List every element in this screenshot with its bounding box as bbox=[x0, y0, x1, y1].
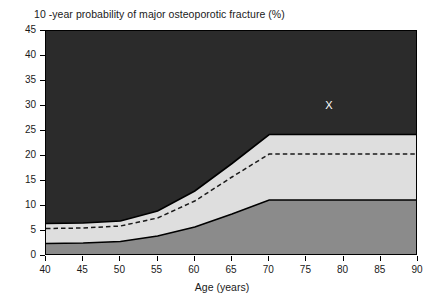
x-tick-label: 60 bbox=[179, 265, 209, 275]
y-tick-label: 15 bbox=[6, 175, 36, 185]
chart-title: 10 -year probability of major osteoporot… bbox=[34, 8, 285, 20]
x-tick-mark bbox=[82, 256, 83, 261]
y-tick-mark bbox=[40, 155, 45, 156]
x-tick-mark bbox=[305, 256, 306, 261]
x-tick-label: 80 bbox=[328, 265, 358, 275]
y-tick-mark bbox=[40, 80, 45, 81]
x-tick-label: 85 bbox=[365, 265, 395, 275]
patient-marker: X bbox=[325, 100, 332, 111]
y-tick-mark bbox=[40, 105, 45, 106]
x-tick-mark bbox=[194, 256, 195, 261]
y-tick-label: 10 bbox=[6, 200, 36, 210]
x-tick-mark bbox=[45, 256, 46, 261]
x-axis-title: Age (years) bbox=[0, 281, 444, 293]
x-tick-label: 90 bbox=[402, 265, 432, 275]
plot-area: X bbox=[45, 30, 417, 255]
y-tick-label: 30 bbox=[6, 100, 36, 110]
y-tick-label: 40 bbox=[6, 50, 36, 60]
x-tick-mark bbox=[119, 256, 120, 261]
y-tick-mark bbox=[40, 30, 45, 31]
x-tick-label: 70 bbox=[253, 265, 283, 275]
chart-container: 10 -year probability of major osteoporot… bbox=[0, 0, 444, 299]
y-tick-label: 0 bbox=[6, 250, 36, 260]
y-tick-label: 20 bbox=[6, 150, 36, 160]
y-tick-label: 5 bbox=[6, 225, 36, 235]
x-tick-label: 50 bbox=[104, 265, 134, 275]
y-tick-mark bbox=[40, 230, 45, 231]
x-tick-label: 40 bbox=[30, 265, 60, 275]
x-axis-title-label: Age (years) bbox=[195, 281, 249, 293]
y-tick-label: 35 bbox=[6, 75, 36, 85]
y-tick-mark bbox=[40, 180, 45, 181]
x-tick-label: 45 bbox=[67, 265, 97, 275]
x-tick-mark bbox=[157, 256, 158, 261]
y-tick-mark bbox=[40, 55, 45, 56]
y-tick-mark bbox=[40, 205, 45, 206]
x-tick-mark bbox=[231, 256, 232, 261]
x-tick-label: 55 bbox=[142, 265, 172, 275]
x-tick-mark bbox=[380, 256, 381, 261]
x-tick-label: 75 bbox=[290, 265, 320, 275]
x-tick-mark bbox=[417, 256, 418, 261]
plot-svg bbox=[46, 31, 417, 255]
x-tick-mark bbox=[343, 256, 344, 261]
y-tick-label: 45 bbox=[6, 25, 36, 35]
y-tick-label: 25 bbox=[6, 125, 36, 135]
y-tick-mark bbox=[40, 130, 45, 131]
x-tick-label: 65 bbox=[216, 265, 246, 275]
x-tick-mark bbox=[268, 256, 269, 261]
